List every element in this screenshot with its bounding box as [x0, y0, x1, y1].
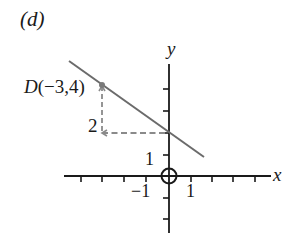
point-d-marker	[99, 82, 105, 88]
x-axis-label: x	[273, 165, 281, 184]
point-coords: (−3,4)	[38, 76, 85, 97]
y-tick-label-1: 1	[145, 150, 154, 168]
x-tick-label-neg1: −1	[131, 182, 150, 200]
coordinate-diagram: (d) y x D(−3,4) 2 1 −1 1	[0, 0, 296, 234]
x-tick-label-1: 1	[186, 182, 195, 200]
panel-label: (d)	[20, 9, 45, 30]
rise-label: 2	[88, 116, 98, 135]
point-d-label: D(−3,4)	[24, 77, 85, 96]
graph-line	[69, 61, 204, 157]
point-name: D	[24, 76, 38, 97]
y-axis-label: y	[167, 39, 175, 58]
